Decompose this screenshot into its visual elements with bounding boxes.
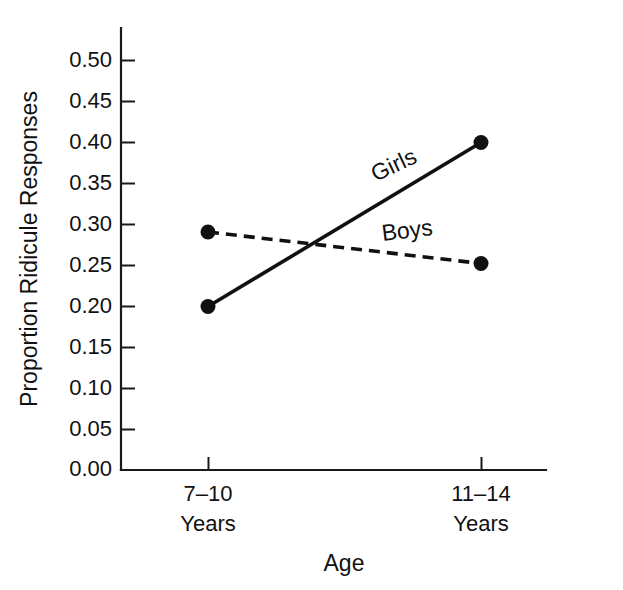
boys-line — [208, 232, 481, 264]
y-tick-labels: 0.50 0.45 0.40 0.35 0.30 0.25 0.20 0.15 … — [69, 47, 112, 481]
x-tick-labels: 7–10 Years 11–14 Years — [180, 481, 511, 536]
boys-marker-7-10 — [201, 225, 216, 240]
girls-marker-7-10 — [201, 299, 216, 314]
y-tick-label: 0.00 — [69, 456, 112, 481]
y-tick-label: 0.40 — [69, 129, 112, 154]
y-tick-label: 0.50 — [69, 47, 112, 72]
y-tick-label: 0.10 — [69, 375, 112, 400]
line-chart: Proportion Ridicule Responses 0.50 0.45 … — [0, 0, 623, 590]
x-tick-label-group-2-range: 11–14 — [451, 481, 511, 506]
boys-series-label: Boys — [380, 214, 434, 246]
y-tick-marks — [121, 61, 135, 430]
x-tick-label-group-2-unit: Years — [453, 511, 508, 536]
y-tick-label: 0.20 — [69, 293, 112, 318]
x-tick-label-group-1-unit: Years — [180, 511, 235, 536]
y-tick-label: 0.05 — [69, 416, 112, 441]
girls-marker-11-14 — [474, 135, 489, 150]
x-tick-label-group-1-range: 7–10 — [184, 481, 233, 506]
y-tick-label: 0.25 — [69, 252, 112, 277]
y-tick-label: 0.45 — [69, 88, 112, 113]
x-axis-title: Age — [324, 550, 365, 576]
series-girls: Girls — [201, 135, 489, 314]
boys-marker-11-14 — [474, 256, 489, 271]
girls-series-label: Girls — [367, 143, 421, 187]
y-tick-label: 0.30 — [69, 211, 112, 236]
x-tick-marks — [209, 457, 482, 470]
y-tick-label: 0.35 — [69, 170, 112, 195]
y-axis-title: Proportion Ridicule Responses — [16, 91, 42, 407]
y-tick-label: 0.15 — [69, 334, 112, 359]
girls-line — [208, 143, 481, 307]
chart-figure: Proportion Ridicule Responses 0.50 0.45 … — [0, 0, 623, 590]
